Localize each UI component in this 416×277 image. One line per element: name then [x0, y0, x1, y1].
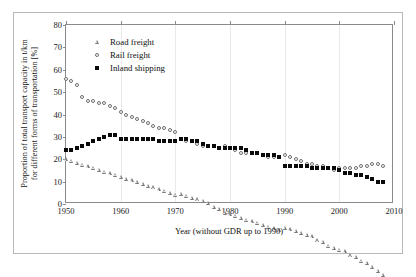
y-tick-label: 40 [54, 110, 63, 119]
data-point [310, 162, 314, 166]
data-point [261, 153, 265, 157]
y-tick-label: 20 [54, 155, 63, 164]
data-point [124, 177, 128, 181]
data-point [217, 146, 221, 150]
data-point [233, 214, 237, 218]
x-tick-label: 1990 [276, 207, 293, 216]
data-point [157, 126, 161, 130]
data-point [173, 139, 177, 143]
data-point [173, 130, 177, 134]
data-point [135, 117, 139, 121]
data-point [69, 79, 73, 83]
data-point [365, 261, 369, 265]
y-tick-mark [63, 204, 66, 205]
plot-area: 01020304050607080 1950196019701980199020… [65, 24, 393, 203]
y-tick-label: 10 [54, 177, 63, 186]
open-triangle-icon [95, 40, 99, 44]
data-point [80, 95, 84, 99]
x-tick-mark [394, 21, 395, 25]
data-point [326, 166, 330, 170]
data-point [141, 137, 145, 141]
data-point [124, 113, 128, 117]
data-point [288, 155, 292, 159]
data-point [201, 142, 205, 146]
data-point [294, 164, 298, 168]
data-point [348, 171, 352, 175]
y-tick-mark [63, 137, 66, 138]
data-point [102, 170, 106, 174]
data-point [294, 157, 298, 161]
data-point [354, 166, 358, 170]
data-point [102, 101, 106, 105]
legend-item: Rail freight [86, 48, 165, 61]
data-point [376, 269, 380, 273]
data-point [376, 162, 380, 166]
data-point [91, 139, 95, 143]
data-point [162, 139, 166, 143]
data-point [321, 166, 325, 170]
filled-square-icon [95, 66, 99, 70]
legend-item: Inland shipping [86, 61, 165, 74]
y-tick-label: 80 [54, 21, 63, 30]
data-point [321, 240, 325, 244]
data-point [337, 168, 341, 172]
x-tick-label: 2010 [386, 207, 403, 216]
data-point [124, 137, 128, 141]
data-point [146, 121, 150, 125]
data-point [359, 173, 363, 177]
data-point [195, 197, 199, 201]
data-point [381, 273, 385, 277]
y-tick-label: 70 [54, 43, 63, 52]
legend-marker [86, 66, 108, 70]
data-point [64, 77, 68, 81]
data-point [223, 146, 227, 150]
data-point [376, 180, 380, 184]
data-point [108, 104, 112, 108]
data-point [244, 218, 248, 222]
data-point [348, 253, 352, 257]
data-point [370, 162, 374, 166]
legend-marker [86, 53, 108, 57]
data-point [272, 153, 276, 157]
open-circle-icon [95, 53, 99, 57]
data-point [86, 164, 90, 168]
data-point [130, 178, 134, 182]
data-point [359, 259, 363, 263]
legend-item: Road freight [86, 35, 165, 48]
data-point [179, 137, 183, 141]
data-point [239, 151, 243, 155]
data-point [184, 194, 188, 198]
x-tick-mark [339, 21, 340, 25]
data-point [370, 177, 374, 181]
data-point [190, 139, 194, 143]
data-point [108, 171, 112, 175]
data-point [69, 159, 73, 163]
data-point [343, 171, 347, 175]
legend-label: Road freight [108, 37, 154, 47]
data-point [113, 106, 117, 110]
data-point [255, 151, 259, 155]
data-point [359, 164, 363, 168]
y-tick-mark [63, 182, 66, 183]
data-point [146, 137, 150, 141]
data-point [228, 146, 232, 150]
y-tick-mark [63, 115, 66, 116]
data-point [141, 182, 145, 186]
data-point [91, 166, 95, 170]
data-point [135, 137, 139, 141]
data-point [190, 196, 194, 200]
x-axis-label: Year (without GDR up to 1990) [65, 226, 393, 236]
data-point [151, 124, 155, 128]
data-point [157, 139, 161, 143]
x-tick-mark [121, 21, 122, 25]
data-point [239, 216, 243, 220]
x-tick-mark [175, 21, 176, 25]
data-point [75, 83, 79, 87]
data-point [168, 191, 172, 195]
y-axis-label-line2: for different forms of transportation [%… [30, 47, 39, 180]
data-point [179, 192, 183, 196]
data-point [354, 255, 358, 259]
data-point [250, 151, 254, 155]
data-point [217, 207, 221, 211]
data-point [80, 163, 84, 167]
